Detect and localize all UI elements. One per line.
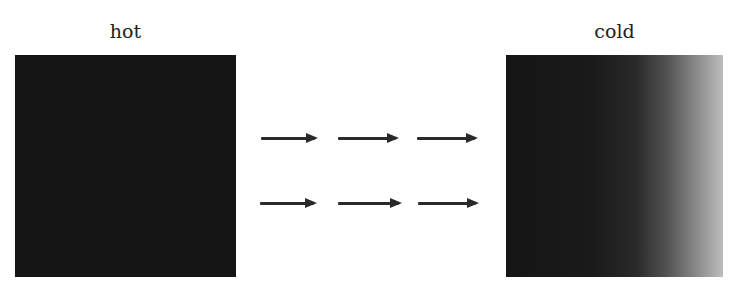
arrow-right-icon [418, 202, 476, 205]
hot-label: hot [15, 20, 236, 42]
arrow-right-icon [338, 137, 396, 140]
arrow-right-icon [261, 137, 315, 140]
cold-region [506, 55, 723, 277]
arrow-right-icon [338, 202, 399, 205]
hot-region [15, 55, 236, 277]
arrow-right-icon [260, 202, 314, 205]
arrow-right-icon [417, 137, 475, 140]
cold-label: cold [506, 20, 723, 42]
